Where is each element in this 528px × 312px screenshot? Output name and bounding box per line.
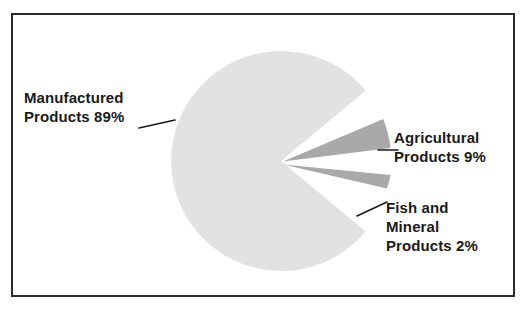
pie-chart-figure: Manufactured Products 89% Agricultural P… (0, 0, 528, 312)
pie-slice-manufactured (171, 51, 366, 271)
slice-label-manufactured: Manufactured Products 89% (24, 88, 124, 126)
slice-label-fish-mineral: Fish and Mineral Products 2% (386, 198, 478, 255)
slice-label-fish-mineral-line1: Fish and (386, 198, 478, 217)
slice-label-fish-mineral-line2: Mineral (386, 217, 478, 236)
slice-label-agricultural-line2: Products 9% (394, 147, 486, 166)
slice-label-manufactured-line1: Manufactured (24, 88, 124, 107)
leader-line-manufactured (139, 120, 175, 128)
slice-label-agricultural: Agricultural Products 9% (394, 128, 486, 166)
slice-label-fish-mineral-line3: Products 2% (386, 236, 478, 255)
slice-label-manufactured-line2: Products 89% (24, 107, 124, 126)
slice-label-agricultural-line1: Agricultural (394, 128, 486, 147)
leader-line-fish-mineral (357, 202, 387, 216)
